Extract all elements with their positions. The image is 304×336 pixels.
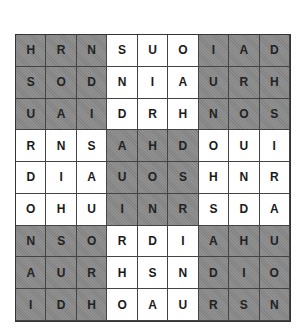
grid-cell[interactable]: I (138, 67, 168, 99)
grid-cell[interactable]: O (16, 194, 46, 226)
grid-cell[interactable]: R (229, 67, 259, 99)
grid-cell[interactable]: A (77, 162, 107, 194)
grid-cell[interactable]: A (260, 194, 290, 226)
grid-cell[interactable]: U (229, 130, 259, 162)
grid-cell[interactable]: U (107, 162, 137, 194)
grid-cell[interactable]: R (107, 226, 137, 258)
grid-cell[interactable]: H (138, 130, 168, 162)
grid-cell[interactable]: H (260, 67, 290, 99)
grid-cell[interactable]: D (229, 194, 259, 226)
grid-cell[interactable]: N (77, 35, 107, 67)
grid-cell[interactable]: U (168, 289, 198, 321)
grid-cell[interactable]: R (46, 35, 76, 67)
grid-cell[interactable]: U (46, 257, 76, 289)
grid-cell[interactable]: I (260, 130, 290, 162)
grid-cell[interactable]: A (107, 130, 137, 162)
grid-cell[interactable]: S (168, 162, 198, 194)
grid-cell[interactable]: S (77, 130, 107, 162)
grid-cell[interactable]: N (138, 194, 168, 226)
grid-cell[interactable]: I (16, 289, 46, 321)
grid-cell[interactable]: D (168, 130, 198, 162)
grid-cell[interactable]: O (46, 67, 76, 99)
grid-cell[interactable]: O (107, 289, 137, 321)
grid-cell[interactable]: H (77, 289, 107, 321)
grid-cell[interactable]: H (107, 257, 137, 289)
grid-cell[interactable]: O (77, 226, 107, 258)
grid-cell[interactable]: A (138, 289, 168, 321)
grid-cell[interactable]: N (107, 67, 137, 99)
grid-cell[interactable]: D (77, 67, 107, 99)
grid-cell[interactable]: S (107, 35, 137, 67)
grid-cell[interactable]: H (229, 226, 259, 258)
grid-cell[interactable]: U (138, 35, 168, 67)
grid-cell[interactable]: H (16, 35, 46, 67)
grid-cell[interactable]: O (168, 35, 198, 67)
grid-cell[interactable]: A (46, 99, 76, 131)
wordoku-grid: HRNSUOIADSODNIAURHUAIDRHNOSRNSAHDOUIDIAU… (15, 34, 291, 322)
grid-cell[interactable]: N (168, 257, 198, 289)
grid-cell[interactable]: H (199, 162, 229, 194)
grid-cell[interactable]: A (199, 226, 229, 258)
grid-cell[interactable]: N (46, 130, 76, 162)
grid-cell[interactable]: S (229, 289, 259, 321)
grid-cell[interactable]: D (138, 226, 168, 258)
grid-cell[interactable]: H (168, 99, 198, 131)
grid-cell[interactable]: U (16, 99, 46, 131)
grid-cell[interactable]: R (16, 130, 46, 162)
grid-cell[interactable]: S (260, 99, 290, 131)
grid-cell[interactable]: D (107, 99, 137, 131)
grid-cell[interactable]: U (260, 226, 290, 258)
grid-cell[interactable]: O (138, 162, 168, 194)
grid-cell[interactable]: S (199, 194, 229, 226)
grid-cell[interactable]: A (229, 35, 259, 67)
grid-cell[interactable]: O (199, 130, 229, 162)
grid-cell[interactable]: N (199, 99, 229, 131)
grid-cell[interactable]: S (46, 226, 76, 258)
grid-cell[interactable]: I (107, 194, 137, 226)
grid-cell[interactable]: I (77, 99, 107, 131)
grid-cell[interactable]: S (16, 67, 46, 99)
grid-cell[interactable]: S (138, 257, 168, 289)
grid-cell[interactable]: O (229, 99, 259, 131)
grid-cell[interactable]: I (46, 162, 76, 194)
grid-cell[interactable]: I (199, 35, 229, 67)
grid-cell[interactable]: O (260, 257, 290, 289)
grid-cell[interactable]: N (260, 289, 290, 321)
grid-cell[interactable]: I (229, 257, 259, 289)
grid-cell[interactable]: R (168, 194, 198, 226)
grid-cell[interactable]: R (260, 162, 290, 194)
grid-cell[interactable]: D (16, 162, 46, 194)
grid-cell[interactable]: D (260, 35, 290, 67)
grid-cell[interactable]: D (199, 257, 229, 289)
grid-cell[interactable]: H (46, 194, 76, 226)
grid-cell[interactable]: A (16, 257, 46, 289)
grid-cell[interactable]: A (168, 67, 198, 99)
grid-cell[interactable]: D (46, 289, 76, 321)
grid-cell[interactable]: R (138, 99, 168, 131)
grid-cell[interactable]: N (229, 162, 259, 194)
grid-cell[interactable]: R (199, 289, 229, 321)
grid-cell[interactable]: U (199, 67, 229, 99)
grid-cell[interactable]: I (168, 226, 198, 258)
grid-cell[interactable]: N (16, 226, 46, 258)
grid-cell[interactable]: U (77, 194, 107, 226)
grid-cell[interactable]: R (77, 257, 107, 289)
